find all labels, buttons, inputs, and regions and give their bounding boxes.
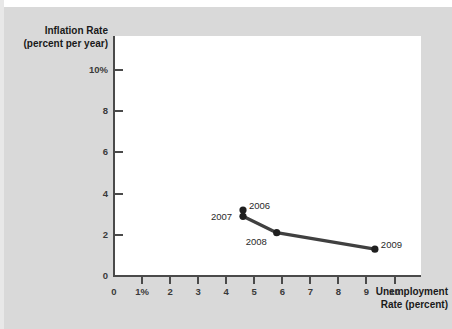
y-axis-tick-mark [115, 110, 123, 112]
x-axis-tick-label: 5 [252, 286, 257, 297]
y-axis-tick-mark [115, 193, 123, 195]
y-axis-tick-label: 0 [0, 270, 108, 281]
y-axis-title-line1: Inflation Rate [0, 24, 108, 37]
x-axis-tick-mark [197, 277, 199, 284]
x-axis-tick-mark [225, 277, 227, 284]
y-axis-tick-mark [115, 234, 123, 236]
x-axis-tick-label: 1% [135, 286, 149, 297]
x-axis-tick-mark [365, 277, 367, 284]
x-axis-tick-label: 7 [308, 286, 313, 297]
y-axis-tick-label: 8 [0, 105, 108, 116]
page-top-margin [0, 0, 452, 7]
x-axis-tick-mark [309, 277, 311, 284]
x-axis-tick-label: 3 [195, 286, 200, 297]
x-axis-tick-mark [169, 277, 171, 284]
y-axis-tick-label: 2 [0, 229, 108, 240]
x-axis-tick-label: 6 [280, 286, 285, 297]
y-axis-title-line2: (percent per year) [0, 37, 108, 50]
x-axis-tick-label: 2 [167, 286, 172, 297]
y-axis-tick-mark [115, 151, 123, 153]
plot-area [114, 36, 421, 276]
x-axis-tick-mark [141, 277, 143, 284]
x-axis-tick-label: 9 [364, 286, 369, 297]
y-axis-line [113, 36, 115, 277]
y-axis-tick-mark [115, 69, 123, 71]
y-axis-tick-label: 4 [0, 188, 108, 199]
data-point-label: 2008 [246, 236, 267, 247]
data-point-label: 2007 [211, 211, 232, 222]
x-axis-tick-label: 4 [224, 286, 229, 297]
x-axis-tick-mark [253, 277, 255, 284]
data-point-label: 2009 [381, 239, 402, 250]
x-axis-tick-mark [394, 277, 396, 284]
x-axis-tick-label: 0 [111, 286, 116, 297]
x-axis-tick-mark [281, 277, 283, 284]
y-axis-tick-label: 10% [0, 64, 108, 75]
chart-canvas: Inflation Rate (percent per year) Unempl… [0, 0, 452, 329]
x-axis-tick-label: 10 [389, 286, 400, 297]
y-axis-title: Inflation Rate (percent per year) [0, 24, 108, 50]
x-axis-tick-mark [337, 277, 339, 284]
data-point-label: 2006 [249, 200, 270, 211]
x-axis-line [113, 275, 421, 277]
x-axis-tick-label: 8 [336, 286, 341, 297]
x-axis-title-line2: Rate (percent) [330, 298, 448, 311]
y-axis-tick-label: 6 [0, 146, 108, 157]
